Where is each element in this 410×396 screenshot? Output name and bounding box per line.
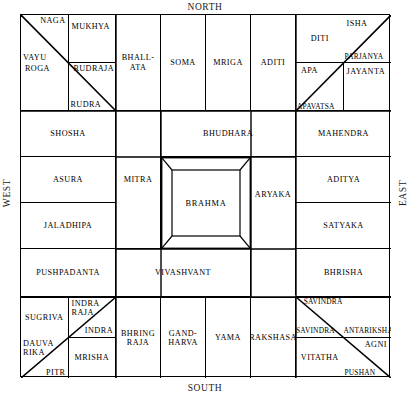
cell-label-mitra: MITRA [124,175,153,184]
cell-antariksha: ANTARIKSHA [344,297,392,338]
cell-satyaka: SATYAKA [296,203,391,249]
cell-soma: SOMA [161,15,206,111]
cell-label-vayu: VAYU [23,53,46,62]
cell-label-antariksha: ANTARIKSHA [344,327,392,335]
cell-label-bhrisha: BHRISHA [324,268,363,277]
cell-label-jayanta: JAYANTA [347,67,386,76]
cell-shosha: SHOSHA [21,111,116,157]
cell-label-pitr: PITR [46,368,66,377]
cell-label-pushpadanta: PUSHPADANTA [36,268,100,277]
cell-roga: ROGA [21,63,69,111]
cell-yama: YAMA [206,297,251,378]
cell-mrisha: MRISHA [69,338,117,379]
cell-mahendra: MAHENDRA [296,111,391,157]
cell-bhallata: BHALL- ATA [116,15,161,111]
cell-pitr: PITR [21,338,69,379]
cell-pushan: PUSHAN [344,338,392,379]
cell-vayu: VAYU [21,15,69,63]
cell-pushpadanta: PUSHPADANTA [21,249,116,297]
cell-apavatsa: APAVATSA [296,63,344,111]
cell-parjanya: PARJANYA [344,15,392,63]
cell-bhring-raja: BHRING RAJA [116,297,161,378]
cell-asura: ASURA [21,157,116,203]
cell-label-shosha: SHOSHA [50,129,85,138]
cell-label-indra: INDRA [85,326,113,335]
cell-sugriva: SUGRIVA [21,297,69,338]
cell-label-rakshasa: RAKSHASA [251,333,296,342]
cell-jaladhipa: JALADHIPA [21,203,116,249]
cell-rakshasa: RAKSHASA [251,297,296,378]
cell-label-asura: ASURA [53,175,83,184]
cell-bhrisha: BHRISHA [296,249,391,297]
direction-label-north: NORTH [0,2,410,12]
cell-label-mriga: MRIGA [213,58,243,67]
cell-label-rudra: RUDRA [71,100,102,109]
cell-bhudhara: BHUDHARA [161,111,296,157]
cell-label-soma: SOMA [170,58,195,67]
cell-label-bhallata-line2: ATA [130,63,147,72]
cell-label-aditi: ADITI [261,58,286,67]
cell-label-roga: ROGA [25,64,50,73]
cell-label-vitatha: VITATHA [301,353,339,362]
cell-label-gandharva-line1: GAND- [169,329,198,338]
cell-label-mrisha: MRISHA [74,353,109,362]
cell-label-bhring-raja-line1: BHRING [121,329,155,338]
cell-diti: DITI [296,15,344,63]
cell-label-aditya: ADITYA [327,175,360,184]
direction-label-west: WEST [2,173,12,213]
cell-label-satyaka: SATYAKA [323,221,363,230]
cell-jayanta: JAYANTA [344,63,392,111]
cell-aryaka: ARYAKA [251,157,296,295]
cell-label-vivashvant: VIVASHVANT [155,268,211,277]
cell-label-mukhya: MUKHYA [72,22,110,31]
brahma-pit: BRAHMA [161,157,251,249]
direction-label-east: EAST [398,173,408,213]
cell-label-bhallata-line1: BHALL- [122,53,155,62]
cell-label-parjanya: PARJANYA [345,53,384,61]
cell-label-sugriva: SUGRIVA [25,313,64,322]
cell-rudra: RUDRA [69,63,117,111]
cell-label-jaladhipa: JALADHIPA [44,221,92,230]
cell-label-pushan: PUSHAN [345,369,376,377]
cell-label-bhring-raja-line2: RAJA [127,338,149,347]
cell-vitatha: VITATHA [296,338,344,379]
cell-mitra: MITRA [116,111,161,249]
vastu-mandala-diagram: NORTH SOUTH WEST EAST NAGA MUKHYA VAYU R… [0,0,410,396]
cell-label-gandharva-line2: HARVA [168,338,198,347]
cell-label-savindra-mid: SAVINDRA [296,327,335,335]
direction-label-south: SOUTH [0,383,410,393]
cell-aditi: ADITI [251,15,296,111]
cell-label-diti: DITI [311,34,329,43]
brahma-label: BRAHMA [161,157,251,249]
cell-gandharva: GAND- HARVA [161,297,206,378]
cell-label-bhudhara: BHUDHARA [203,129,253,138]
cell-label-apavatsa: APAVATSA [297,103,335,111]
cell-label-yama: YAMA [215,333,241,342]
cell-indra: INDRA [69,297,117,338]
mandala-grid-plate: NAGA MUKHYA VAYU ROGA RUDRAJA RUDRA BHAL… [20,14,390,377]
cell-savindra-mid: SAVINDRA [296,297,344,338]
cell-vivashvant: VIVASHVANT [116,249,251,297]
cell-mriga: MRIGA [206,15,251,111]
cell-label-mahendra: MAHENDRA [318,129,369,138]
cell-aditya: ADITYA [296,157,391,203]
cell-mukhya: MUKHYA [69,15,117,63]
cell-label-aryaka: ARYAKA [255,190,291,199]
